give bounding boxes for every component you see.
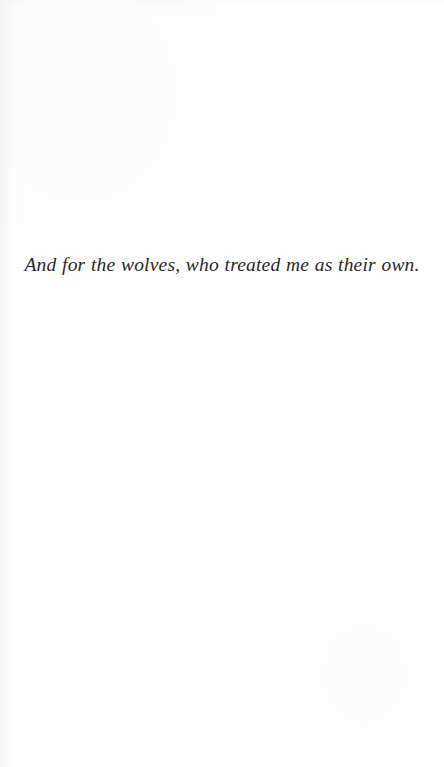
- scan-gutter-shadow: [0, 0, 20, 767]
- paper-texture-overlay: [0, 0, 444, 767]
- dedication-text: And for the wolves, who treated me as th…: [24, 252, 419, 278]
- dedication-block: And for the wolves, who treated me as th…: [0, 252, 444, 278]
- scan-top-shadow: [0, 0, 444, 14]
- book-page: And for the wolves, who treated me as th…: [0, 0, 444, 767]
